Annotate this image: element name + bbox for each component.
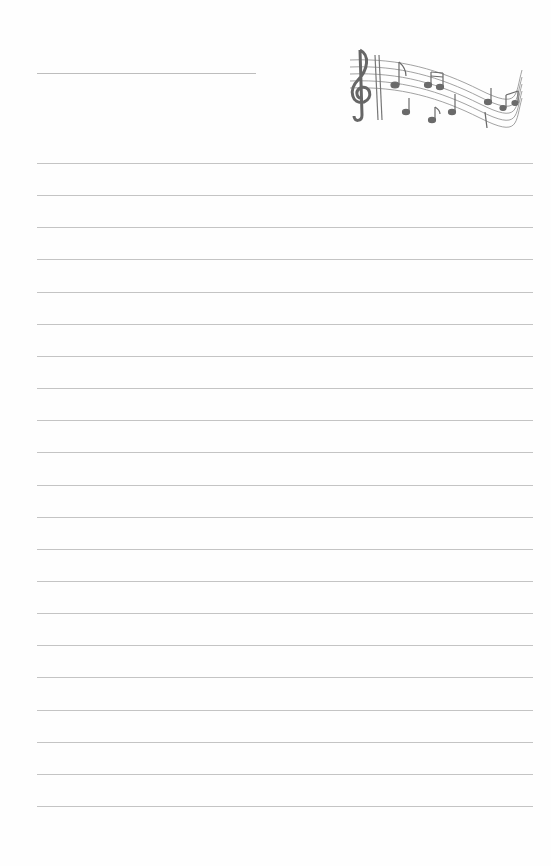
ruled-line <box>37 549 533 550</box>
ruled-line <box>37 677 533 678</box>
ruled-line <box>37 742 533 743</box>
ruled-line <box>37 581 533 582</box>
ruled-line <box>37 292 533 293</box>
ruled-line <box>37 227 533 228</box>
music-staff-icon <box>340 40 525 130</box>
ruled-line <box>37 324 533 325</box>
ruled-line <box>37 806 533 807</box>
name-line <box>37 73 256 74</box>
ruled-line <box>37 452 533 453</box>
ruled-line <box>37 259 533 260</box>
ruled-line <box>37 485 533 486</box>
ruled-line <box>37 356 533 357</box>
ruled-line <box>37 163 533 164</box>
stationery-page <box>0 0 551 866</box>
ruled-line <box>37 420 533 421</box>
ruled-line <box>37 774 533 775</box>
ruled-line <box>37 710 533 711</box>
ruled-line <box>37 613 533 614</box>
ruled-line <box>37 517 533 518</box>
ruled-line <box>37 195 533 196</box>
ruled-line <box>37 645 533 646</box>
ruled-line <box>37 388 533 389</box>
